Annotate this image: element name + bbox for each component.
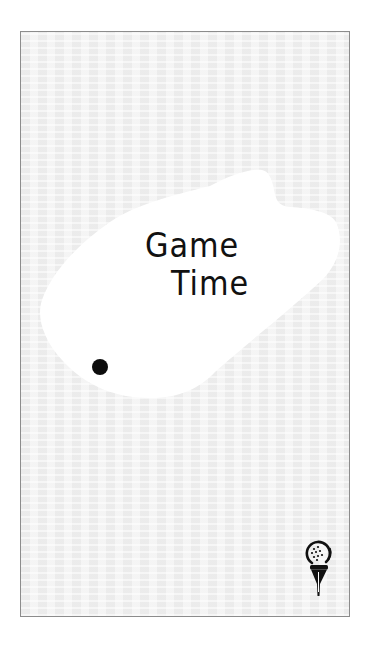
- card-title-line-2: Time: [171, 267, 249, 300]
- card-title-line-1: Game: [145, 229, 239, 262]
- black-dot: [92, 359, 108, 375]
- golf-ball-on-tee-icon: [307, 542, 331, 596]
- card-artwork: [0, 0, 370, 657]
